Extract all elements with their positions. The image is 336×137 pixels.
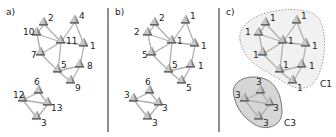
pyramid-base — [66, 82, 75, 84]
pyramid-base — [256, 92, 265, 94]
pyramid-base — [32, 118, 41, 120]
node-value-label: 12 — [13, 90, 24, 100]
node-value-label: 3 — [235, 90, 241, 100]
node-value-label: 3 — [162, 103, 168, 113]
node-value-label: 6 — [145, 77, 151, 87]
pyramid-base — [39, 24, 48, 26]
node-value-label: 1 — [90, 41, 96, 51]
cluster-c3-label: C3 — [284, 118, 296, 128]
pyramid-base — [278, 42, 287, 44]
pyramid-base — [297, 66, 306, 68]
graph-node-n10: 2 — [134, 27, 152, 37]
pyramid-base — [177, 82, 186, 84]
pyramid-base — [261, 24, 270, 26]
pyramid-base — [258, 54, 267, 56]
pyramid-base — [53, 71, 62, 73]
node-value-label: 1 — [198, 61, 204, 71]
graph-node-n4: 4 — [70, 11, 85, 24]
pyramid-base — [240, 100, 249, 102]
node-value-label: 4 — [79, 11, 85, 21]
panel-label-b: b) — [115, 7, 124, 17]
graph-node-n5: 5 — [164, 60, 178, 73]
graph-node-n13: 13 — [43, 97, 62, 113]
pyramid-base — [150, 24, 159, 26]
node-value-label: 3 — [263, 118, 269, 128]
graph-node-n11: 11 — [56, 35, 77, 46]
node-value-label: 1 — [177, 36, 183, 46]
node-value-label: 1 — [190, 11, 196, 21]
pyramid-base — [254, 34, 263, 36]
pyramid-base — [79, 45, 88, 47]
node-value-label: 1 — [253, 50, 259, 60]
node-value-label: 1 — [283, 60, 289, 70]
pyramid-base — [186, 66, 195, 68]
graph-node-n2: 2 — [150, 13, 165, 26]
pyramid-base — [288, 82, 297, 84]
node-value-label: 1 — [312, 41, 318, 51]
pyramid-base — [129, 100, 138, 102]
panel-a: a)24101117589612133 — [6, 7, 96, 128]
node-value-label: 1 — [288, 36, 294, 46]
graph-node-n5: 5 — [53, 60, 67, 73]
pyramid-base — [275, 71, 284, 73]
graph-diagram: C1C3 a)24101117589612133b)2121155156333c… — [0, 0, 336, 137]
node-value-label: 5 — [186, 83, 192, 93]
node-value-label: 2 — [159, 13, 165, 23]
node-value-label: 1 — [297, 83, 303, 93]
node-value-label: 6 — [34, 77, 40, 87]
node-value-label: 3 — [273, 103, 279, 113]
pyramid-base — [145, 92, 154, 94]
pyramid-base — [254, 118, 263, 120]
node-value-label: 9 — [75, 83, 81, 93]
cluster-c1-label: C1 — [320, 79, 332, 89]
graph-edge — [41, 42, 61, 54]
graph-node-n10: 10 — [23, 27, 41, 37]
pyramid-base — [56, 42, 65, 44]
node-value-label: 3 — [41, 118, 47, 128]
node-value-label: 5 — [172, 60, 178, 70]
graph-node-n7: 5 — [142, 47, 156, 60]
node-value-label: 2 — [134, 27, 140, 37]
pyramid-base — [167, 42, 176, 44]
pyramid-base — [181, 22, 190, 24]
node-value-label: 2 — [48, 13, 54, 23]
pyramid-base — [143, 118, 152, 120]
pyramid-base — [70, 22, 79, 24]
graph-node-n4: 1 — [181, 11, 196, 24]
pyramid-base — [301, 45, 310, 47]
node-value-label: 1 — [245, 27, 251, 37]
node-value-label: 1 — [201, 41, 207, 51]
pyramid-base — [143, 34, 152, 36]
panel-b: b)2121155156333 — [115, 7, 207, 128]
node-value-label: 1 — [309, 61, 315, 71]
node-value-label: 5 — [61, 60, 67, 70]
graph-node-n11: 1 — [167, 35, 183, 46]
graph-edge — [152, 42, 172, 54]
pyramid-base — [36, 54, 45, 56]
node-value-label: 3 — [124, 90, 130, 100]
node-value-label: 11 — [66, 36, 77, 46]
graph-node-n2: 2 — [39, 13, 54, 26]
graph-node-n12: 12 — [13, 90, 27, 102]
node-value-label: 8 — [87, 61, 93, 71]
panel-label-a: a) — [6, 7, 15, 17]
pyramid-base — [75, 66, 84, 68]
node-value-label: 3 — [256, 77, 262, 87]
node-value-label: 7 — [31, 50, 37, 60]
node-value-label: 5 — [142, 50, 148, 60]
pyramid-base — [18, 100, 27, 102]
pyramid-base — [190, 45, 199, 47]
graph-node-n6: 6 — [34, 77, 43, 94]
pyramid-base — [164, 71, 173, 73]
node-value-label: 10 — [23, 27, 35, 37]
node-value-label: 1 — [270, 13, 276, 23]
pyramid-base — [292, 22, 301, 24]
graph-node-n7: 7 — [31, 47, 45, 60]
pyramid-base — [34, 92, 43, 94]
node-value-label: 3 — [152, 118, 158, 128]
pyramid-base — [147, 54, 156, 56]
panel-label-c: c) — [226, 7, 234, 17]
node-value-label: 1 — [301, 11, 307, 21]
node-value-label: 13 — [51, 103, 62, 113]
graph-node-n12: 3 — [124, 90, 138, 102]
